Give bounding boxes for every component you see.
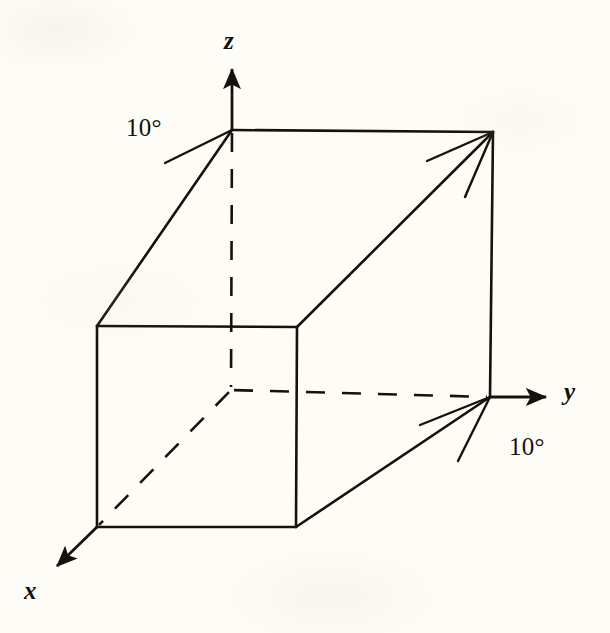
angle-label-top-left: 10°: [126, 115, 162, 140]
axes-box-drawing: [0, 0, 610, 633]
edge-front-top: [97, 326, 297, 327]
z-axis-label: z: [224, 28, 234, 53]
coordinate-axes: [57, 69, 546, 566]
hidden-edge-vertical: [231, 133, 232, 387]
edge-upper-left-slant: [97, 130, 232, 326]
x-axis-label: x: [24, 578, 37, 603]
edge-top-back: [232, 130, 493, 132]
box-solid-edges: [97, 130, 493, 527]
figure-canvas: z y x 10° 10°: [0, 0, 610, 633]
edge-far-right-vertical: [490, 132, 493, 397]
hidden-edge-diagonal: [99, 392, 229, 525]
hidden-edge-depth: [234, 390, 487, 397]
y-axis-label: y: [564, 379, 575, 404]
edge-lower-right-slant: [296, 397, 490, 527]
edge-upper-right-slant: [297, 132, 493, 327]
x-axis-arrow: [57, 527, 97, 566]
edge-front-right: [296, 327, 297, 527]
box-hidden-edges: [99, 133, 487, 525]
angle-label-bottom-right: 10°: [509, 434, 545, 459]
